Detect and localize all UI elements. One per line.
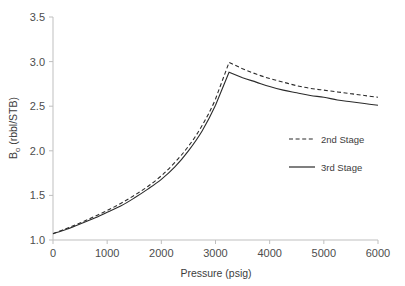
y-tick-label: 1.0 [30, 234, 45, 246]
x-tick-label: 3000 [203, 247, 227, 259]
y-tick-label: 2.0 [30, 145, 45, 157]
y-axis-title-symbol: B [7, 152, 19, 159]
y-tick-label: 3.0 [30, 56, 45, 68]
x-tick-label: 2000 [149, 247, 173, 259]
x-tick-label: 6000 [366, 247, 390, 259]
line-chart: 1.01.52.02.53.03.5 010002000300040005000… [0, 0, 405, 286]
chart-figure: 1.01.52.02.53.03.5 010002000300040005000… [0, 0, 405, 286]
y-tick-label: 2.5 [30, 100, 45, 112]
x-tick-label: 5000 [312, 247, 336, 259]
legend-label-2nd-stage: 2nd Stage [321, 134, 364, 145]
y-tick-label: 3.5 [30, 11, 45, 23]
y-tick-label: 1.5 [30, 189, 45, 201]
x-tick-label: 4000 [257, 247, 281, 259]
legend-label-3rd-stage: 3rd Stage [321, 162, 362, 173]
x-tick-label: 0 [50, 247, 56, 259]
y-axis-title-units: (rbbl/STB) [7, 97, 19, 148]
x-tick-label: 1000 [95, 247, 119, 259]
x-axis-title: Pressure (psig) [180, 267, 251, 279]
